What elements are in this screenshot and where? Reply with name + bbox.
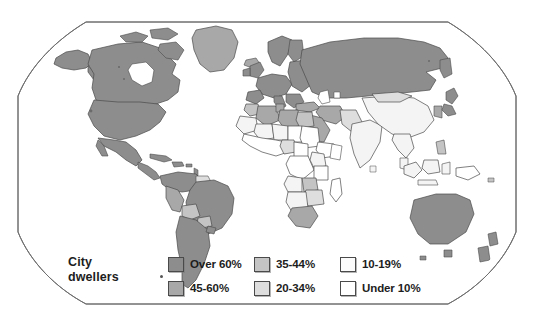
map-dot [90,110,93,113]
legend-label-45-60: 45-60% [190,282,229,294]
legend-item-over-60: Over 60% [168,252,254,276]
region-java [418,180,438,185]
region-aral-sea [334,92,340,98]
legend-item-45-60: 45-60% [168,276,254,300]
region-korea [434,106,442,118]
region-somalia [330,144,342,160]
legend-swatch-grid: Over 60% 35-44% 10-19% 45-60% 20-34% Und [168,252,488,300]
legend-swatch-under-10 [340,281,356,296]
region-sri-lanka [370,166,376,172]
legend-label-under-10: Under 10% [362,282,421,294]
legend-label-20-34: 20-34% [276,282,315,294]
region-niger [272,124,288,140]
legend-label-over-60: Over 60% [190,258,242,270]
legend-item-under-10: Under 10% [340,276,440,300]
region-hispaniola [172,162,184,167]
world-map-figure: City dwellers Over 60% 35-44% 10-19% 45-… [0,0,534,326]
legend-label-10-19: 10-19% [362,258,401,270]
legend-leader-dot [160,275,163,278]
region-ussr [300,38,448,98]
legend-item-35-44: 35-44% [254,252,340,276]
region-sulawesi [442,162,450,174]
legend-swatch-10-19 [340,257,356,272]
legend-item-10-19: 10-19% [340,252,440,276]
legend-swatch-35-44 [254,257,270,272]
legend-item-20-34: 20-34% [254,276,340,300]
map-dot [123,78,125,80]
region-puerto-rico [186,164,192,167]
legend-title-line-1: City [68,255,160,270]
region-philippines [436,140,446,154]
map-dot [428,60,430,62]
region-angola [284,176,302,192]
region-pacific-islet-1 [488,178,494,182]
legend-swatch-45-60 [168,281,184,296]
region-cameroon-car [294,142,308,158]
legend-swatch-over-60 [168,257,184,272]
legend-title: City dwellers [68,255,160,284]
legend-swatch-20-34 [254,281,270,296]
map-dot [118,66,120,68]
region-egypt [296,112,314,128]
region-new-zealand-north [488,232,498,246]
legend-label-35-44: 35-44% [276,258,315,270]
legend-title-line-2: dwellers [68,270,160,285]
region-chad [288,126,302,142]
map-legend: City dwellers Over 60% 35-44% 10-19% 45-… [68,252,488,304]
